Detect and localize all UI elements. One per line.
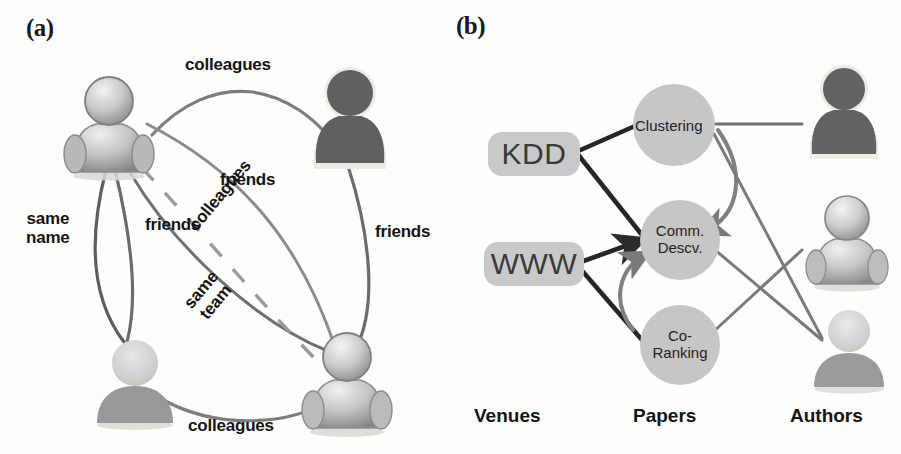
venue-node-kdd[interactable]: KDD [488, 132, 580, 176]
edge-friends-left [115, 170, 133, 342]
paper-node-co-ranking[interactable]: Co- Ranking [640, 305, 720, 385]
venue-label-www: WWW [491, 247, 577, 281]
column-label-venues: Venues [474, 405, 541, 427]
panel-b: (b) [450, 0, 901, 454]
edge-friends-mid [131, 174, 330, 352]
panel-a: (a) [0, 0, 450, 454]
venue-label-kdd: KDD [502, 137, 567, 171]
avatar-person-bottom-right[interactable] [296, 328, 398, 438]
avatar-author-top[interactable] [798, 64, 890, 164]
figure-root: (a) [0, 0, 901, 454]
paper-label-clustering: Clustering [635, 117, 703, 134]
avatar-author-middle[interactable] [800, 192, 894, 292]
edge-friends-right [348, 166, 369, 348]
venue-node-www[interactable]: WWW [484, 242, 584, 286]
label-same-name: same name [26, 209, 70, 247]
avatar-person-top-right[interactable] [300, 66, 400, 174]
edge-www-comm-descv [578, 240, 642, 263]
avatar-person-bottom-left[interactable] [83, 330, 187, 434]
edge-kdd-clustering [576, 126, 635, 152]
edge-citation-co-ranking-to-comm-descv [620, 254, 646, 330]
column-label-authors: Authors [790, 405, 863, 427]
column-label-papers: Papers [633, 405, 696, 427]
label-colleagues-bottom: colleagues [188, 416, 274, 435]
paper-label-comm-descv: Comm. Descv. [656, 223, 704, 257]
edge-co-ranking-author-middle [712, 250, 802, 333]
paper-node-comm-descv[interactable]: Comm. Descv. [640, 200, 720, 280]
avatar-author-bottom[interactable] [802, 300, 896, 396]
avatar-person-top-left[interactable] [58, 72, 160, 180]
label-colleagues-top: colleagues [185, 55, 271, 74]
label-friends-right: friends [375, 222, 430, 241]
edge-kdd-comm-descv [576, 152, 642, 235]
paper-label-co-ranking: Co- Ranking [652, 328, 707, 362]
